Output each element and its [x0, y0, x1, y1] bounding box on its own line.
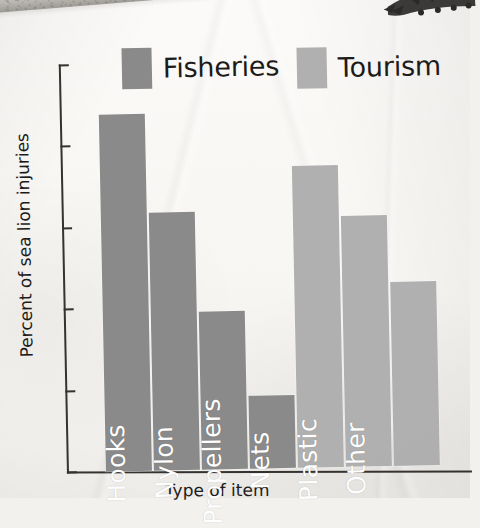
bar-propellers[interactable]: Propellers [199, 311, 248, 470]
plot-area: Hooks Nylon Propellers Nets Plastic Othe… [62, 56, 470, 472]
bar-label-plastic: Plastic [295, 418, 322, 501]
bar-nylon[interactable]: Nylon [149, 212, 200, 471]
bar-chart: Fisheries Tourism 25 20 15 10 5 0 Percen… [0, 0, 474, 502]
bar-unlabeled[interactable] [390, 281, 440, 466]
bar-label-nets: Nets [247, 431, 273, 490]
bar-plastic[interactable]: Plastic [292, 165, 344, 468]
bar-label-other: Other [343, 422, 369, 495]
bar-other[interactable]: Other [341, 215, 392, 467]
bar-label-nylon: Nylon [151, 426, 177, 500]
bar-hooks[interactable]: Hooks [99, 114, 152, 472]
bar-nets[interactable]: Nets [248, 395, 295, 469]
bar-label-hooks: Hooks [103, 424, 130, 503]
bar-label-propellers: Propellers [199, 398, 227, 525]
